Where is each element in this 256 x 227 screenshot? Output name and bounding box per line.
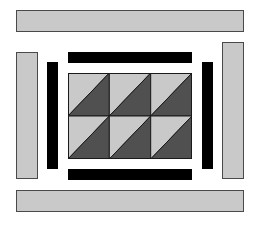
- outer-strip-top: [16, 10, 244, 32]
- outer-strip-left: [16, 52, 38, 179]
- inner-strip-top: [68, 52, 192, 63]
- inner-strip-right: [202, 62, 213, 169]
- inner-strip-left: [47, 62, 58, 169]
- outer-strip-bottom: [16, 190, 244, 212]
- center-triangle-grid: [68, 73, 192, 159]
- outer-strip-right: [222, 42, 244, 179]
- inner-strip-bottom: [68, 169, 192, 180]
